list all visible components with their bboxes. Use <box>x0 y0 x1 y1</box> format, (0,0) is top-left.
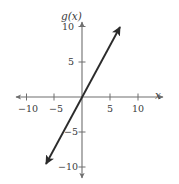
x-axis-label: x <box>155 90 161 101</box>
function-line-g <box>46 27 120 164</box>
x-tick-label-10: 10 <box>132 104 144 114</box>
x-tick-label--10: −10 <box>18 104 38 114</box>
x-tick-label--5: −5 <box>49 104 63 114</box>
coordinate-plane-svg <box>0 0 179 184</box>
linear-function-graph: g(x) x 10 5 −5 −10 −10 −5 5 10 <box>0 0 179 184</box>
y-tick-label-5: 5 <box>68 57 74 67</box>
y-tick-label--10: −10 <box>58 162 78 172</box>
x-tick-label-5: 5 <box>107 104 113 114</box>
y-tick-label-10: 10 <box>62 22 74 32</box>
y-axis-label: g(x) <box>61 11 82 22</box>
y-tick-label--5: −5 <box>64 127 78 137</box>
